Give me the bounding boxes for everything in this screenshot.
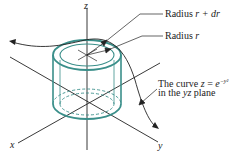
x-axis-label: x xyxy=(10,139,14,150)
bell-curve xyxy=(12,39,156,127)
inner-radius-label: Radius r xyxy=(165,30,199,41)
outer-radius-label: Radius r + dr xyxy=(165,8,220,19)
curve-label-line2: in the yz plane xyxy=(158,87,216,98)
z-axis-label: z xyxy=(84,0,88,11)
y-axis-label: y xyxy=(158,140,162,151)
